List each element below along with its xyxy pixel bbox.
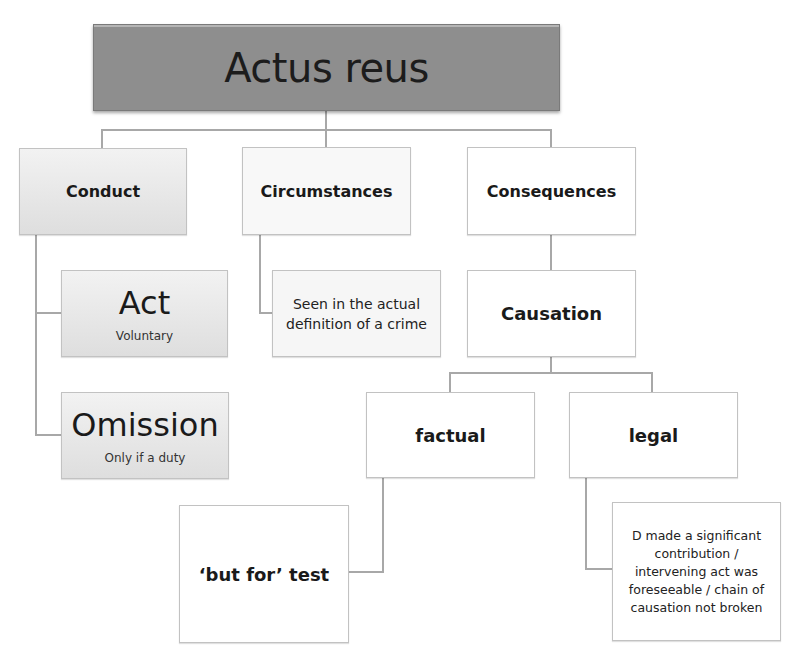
node-but-for-test: ‘but for’ test	[179, 505, 349, 643]
connector	[585, 568, 613, 570]
node-label: Omission	[71, 407, 218, 443]
connector	[259, 235, 261, 314]
node-label: factual	[415, 425, 485, 446]
node-label: D made a significant contribution / inte…	[613, 527, 780, 617]
node-label: Seen in the actual definition of a crime	[273, 294, 440, 334]
connector	[35, 235, 37, 436]
title-node: Actus reus	[93, 24, 560, 111]
node-note: Only if a duty	[105, 451, 186, 465]
connector	[35, 312, 62, 314]
connector	[550, 129, 552, 148]
node-conduct: Conduct	[19, 148, 187, 235]
connector	[325, 129, 327, 148]
node-causation: Causation	[467, 270, 636, 357]
connector	[550, 235, 552, 271]
connector	[35, 434, 62, 436]
node-label: Conduct	[66, 182, 140, 201]
node-note: Voluntary	[116, 329, 173, 343]
connector	[449, 372, 653, 374]
node-label: Act	[119, 285, 170, 321]
node-circumstances-detail: Seen in the actual definition of a crime	[272, 270, 441, 357]
connector	[325, 111, 327, 131]
connector	[651, 372, 653, 393]
connector	[101, 129, 103, 148]
node-label: Circumstances	[261, 182, 393, 201]
node-act: Act Voluntary	[61, 270, 228, 357]
node-label: Causation	[501, 303, 602, 324]
node-legal: legal	[569, 392, 738, 478]
connector	[585, 478, 587, 570]
connector	[259, 312, 273, 314]
node-circumstances: Circumstances	[242, 147, 411, 235]
connector	[382, 478, 384, 573]
title-label: Actus reus	[224, 45, 429, 91]
connector	[449, 372, 451, 393]
node-consequences: Consequences	[467, 147, 636, 235]
node-factual: factual	[366, 392, 535, 478]
node-label: legal	[629, 425, 679, 446]
node-label: Consequences	[487, 182, 616, 201]
connector	[348, 571, 384, 573]
node-legal-detail: D made a significant contribution / inte…	[612, 502, 781, 641]
node-omission: Omission Only if a duty	[61, 392, 229, 479]
node-label: ‘but for’ test	[199, 564, 329, 585]
